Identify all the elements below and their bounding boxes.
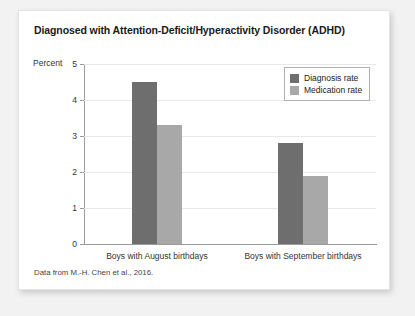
gridline (84, 64, 376, 65)
legend-label: Diagnosis rate (304, 74, 358, 83)
legend-item: Diagnosis rate (290, 72, 362, 84)
y-axis-tick-label: 2 (72, 167, 77, 177)
chart-legend: Diagnosis rateMedication rate (284, 67, 370, 101)
legend-label: Medication rate (304, 86, 362, 95)
y-axis-tick-label: 4 (72, 95, 77, 105)
gridline (84, 208, 376, 209)
y-axis-tick-label: 3 (72, 131, 77, 141)
x-axis-group-label: Boys with August birthdays (106, 251, 208, 261)
source-note: Data from M.-H. Chen et al., 2016. (34, 268, 153, 277)
y-axis-tick-label: 5 (72, 59, 77, 69)
y-axis-tick-mark (80, 64, 84, 65)
y-axis-tick-mark (80, 136, 84, 137)
legend-swatch-icon (290, 86, 299, 95)
y-axis-tick-mark (80, 100, 84, 101)
legend-swatch-icon (290, 74, 299, 83)
x-axis-group-label: Boys with September birthdays (244, 251, 361, 261)
y-axis-title: Percent (33, 58, 62, 68)
y-axis-tick-mark (80, 244, 84, 245)
bar (132, 82, 157, 244)
chart-title: Diagnosed with Attention-Deficit/Hyperac… (34, 24, 345, 36)
x-axis-line (84, 244, 377, 245)
gridline (84, 172, 376, 173)
y-axis-tick-mark (80, 208, 84, 209)
figure-card: Diagnosed with Attention-Deficit/Hyperac… (18, 10, 390, 290)
legend-item: Medication rate (290, 84, 362, 96)
gridline (84, 136, 376, 137)
bar (278, 143, 303, 244)
y-axis-tick-mark (80, 172, 84, 173)
bar (303, 176, 328, 244)
y-axis-tick-label: 1 (72, 203, 77, 213)
bar (157, 125, 182, 244)
y-axis-tick-label: 0 (72, 239, 77, 249)
